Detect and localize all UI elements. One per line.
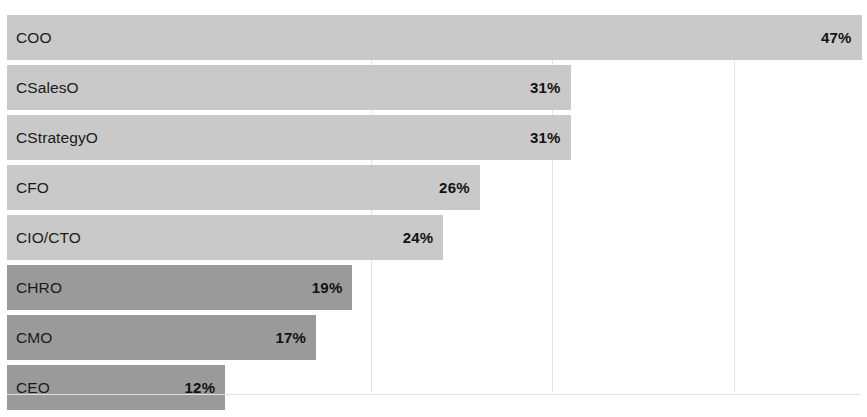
bar-row: COO47%	[7, 15, 867, 60]
bar-row: CHRO19%	[7, 265, 867, 310]
bar-coo[interactable]: COO47%	[7, 15, 862, 60]
bar-value-label: 24%	[403, 229, 444, 246]
plot-area: COO47%CSalesO31%CStrategyO31%CFO26%CIO/C…	[7, 15, 867, 395]
bar-row: CSalesO31%	[7, 65, 867, 110]
bar-row: CStrategyO31%	[7, 115, 867, 160]
bar-chro[interactable]: CHRO19%	[7, 265, 352, 310]
bar-value-label: 19%	[312, 279, 353, 296]
bar-csaleso[interactable]: CSalesO31%	[7, 65, 571, 110]
bar-series: COO47%CSalesO31%CStrategyO31%CFO26%CIO/C…	[7, 15, 867, 395]
bar-category-label: CSalesO	[7, 79, 79, 97]
bar-cfo[interactable]: CFO26%	[7, 165, 480, 210]
bar-row: CFO26%	[7, 165, 867, 210]
axis-baseline	[7, 394, 861, 395]
bar-value-label: 31%	[530, 129, 571, 146]
bar-value-label: 47%	[821, 29, 862, 46]
bar-row: CEO12%	[7, 365, 867, 410]
bar-category-label: CMO	[7, 329, 52, 347]
bar-value-label: 31%	[530, 79, 571, 96]
bar-category-label: CHRO	[7, 279, 62, 297]
bar-category-label: CFO	[7, 179, 49, 197]
bar-cio-cto[interactable]: CIO/CTO24%	[7, 215, 443, 260]
bar-value-label: 26%	[439, 179, 480, 196]
bar-value-label: 17%	[275, 329, 316, 346]
bar-chart: COO47%CSalesO31%CStrategyO31%CFO26%CIO/C…	[0, 0, 867, 417]
bar-cstrategyo[interactable]: CStrategyO31%	[7, 115, 571, 160]
bar-row: CIO/CTO24%	[7, 215, 867, 260]
bar-ceo[interactable]: CEO12%	[7, 365, 225, 410]
bar-category-label: CIO/CTO	[7, 229, 81, 247]
bar-category-label: CStrategyO	[7, 129, 98, 147]
bar-cmo[interactable]: CMO17%	[7, 315, 316, 360]
bar-category-label: COO	[7, 29, 52, 47]
bar-row: CMO17%	[7, 315, 867, 360]
